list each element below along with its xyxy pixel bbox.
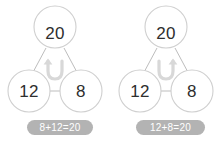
equation-badge-left: 8+12=20 — [27, 120, 93, 135]
whole-value: 20 — [33, 25, 77, 42]
number-bond-diagram-right: 20 12 8 12+8=20 — [111, 0, 221, 150]
part-right-value: 8 — [59, 83, 103, 100]
swap-arrow-right-icon — [159, 59, 177, 80]
worksheet-canvas: 20 12 8 8+12=20 20 12 8 12+8=20 — [0, 0, 221, 150]
number-bond-graphic-left — [0, 0, 110, 118]
whole-value: 20 — [144, 25, 188, 42]
part-left-value: 12 — [7, 83, 51, 100]
swap-arrow-left-icon — [44, 59, 62, 80]
number-bond-diagram-left: 20 12 8 8+12=20 — [0, 0, 110, 150]
part-left-value: 12 — [118, 83, 162, 100]
equation-badge-right: 12+8=20 — [136, 120, 205, 135]
number-bond-graphic-right — [111, 0, 221, 118]
part-right-value: 8 — [170, 83, 214, 100]
